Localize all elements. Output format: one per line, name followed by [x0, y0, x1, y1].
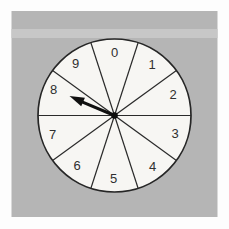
sector-label-9: 9 — [72, 56, 79, 71]
spinner-figure: 0 1 2 3 4 5 6 7 8 9 — [0, 0, 229, 229]
sector-label-2: 2 — [169, 87, 176, 102]
sector-label-7: 7 — [49, 127, 56, 142]
sector-label-3: 3 — [171, 126, 178, 141]
center-pivot-dot — [111, 112, 118, 119]
spinner-wheel: 0 1 2 3 4 5 6 7 8 9 — [38, 39, 191, 192]
sector-label-4: 4 — [149, 159, 156, 174]
sector-label-5: 5 — [110, 171, 117, 186]
sector-label-1: 1 — [148, 57, 155, 72]
sector-label-6: 6 — [73, 158, 80, 173]
scan-light-band — [12, 29, 218, 38]
figure-page: 0 1 2 3 4 5 6 7 8 9 — [0, 0, 229, 229]
sector-label-0: 0 — [111, 45, 118, 60]
sector-label-8: 8 — [50, 82, 57, 97]
